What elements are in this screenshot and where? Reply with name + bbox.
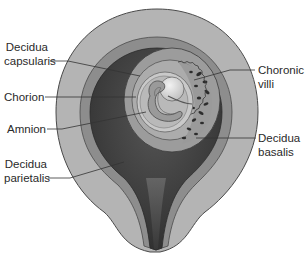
label-decidua-basalis-line2: basalis [258,145,300,159]
label-chorionic-villi: Choronic villi [258,63,304,91]
label-chorionic-villi-line2: villi [258,77,304,91]
label-decidua-basalis: Decidua basalis [258,131,300,159]
label-chorionic-villi-line1: Choronic [258,63,304,77]
label-decidua-capsularis-line2: capsularis [4,54,48,68]
label-decidua-capsularis: Decidua capsularis [4,40,48,68]
label-chorion-line1: Chorion [4,90,44,104]
label-decidua-parietalis-line2: parietalis [4,171,47,185]
label-amnion-line1: Amnion [4,122,46,136]
label-decidua-parietalis: Decidua parietalis [4,157,47,185]
label-decidua-capsularis-line1: Decidua [4,40,48,54]
label-chorion: Chorion [4,90,44,104]
label-decidua-basalis-line1: Decidua [258,131,300,145]
label-amnion: Amnion [4,122,46,136]
label-decidua-parietalis-line1: Decidua [4,157,47,171]
